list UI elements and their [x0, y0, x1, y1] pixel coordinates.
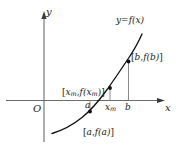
point-b-arg: (b) [147, 52, 160, 62]
point-xm-marker [108, 86, 112, 90]
y-axis [41, 11, 46, 142]
y-axis-label: y [46, 7, 52, 17]
x-axis-label: x [165, 103, 171, 113]
point-label-xm: [xm,f(xm)] [62, 88, 105, 98]
point-xm-close: ] [101, 87, 105, 97]
point-a-close: ] [111, 127, 115, 137]
point-b-marker [127, 60, 131, 64]
point-b-close: ] [159, 52, 163, 62]
x-axis-arrowhead [157, 98, 165, 103]
x-tick-label-xm: xm [105, 103, 116, 113]
x-tick-label-b: b [125, 103, 131, 112]
figure-container: y x O y=f(x) [b,f(b)] [xm,f(xm)] [a,f(a)… [0, 0, 176, 150]
origin-label: O [33, 104, 41, 114]
point-a-arg: (a) [98, 127, 110, 137]
curve-equation-label: y=f(x) [116, 16, 144, 25]
point-xm-arg-open: (x [83, 87, 92, 97]
curve-label-arg: (x) [132, 15, 144, 25]
x-tick-label-a: a [85, 101, 90, 110]
point-label-a: [a,f(a)] [83, 128, 114, 137]
point-label-b: [b,f(b)] [131, 53, 163, 62]
point-a-marker [88, 110, 92, 114]
x-tick-xm-subscript: m [110, 105, 116, 113]
curve-label-equals: = [121, 15, 129, 25]
